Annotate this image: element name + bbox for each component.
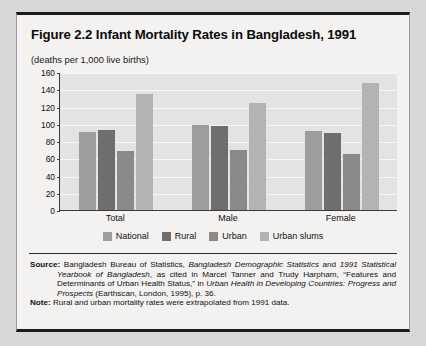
y-tick-120: 120 [29, 103, 55, 111]
source-text-1: Bangladesh Bureau of Statistics, [60, 260, 188, 269]
figure-card: Figure 2.2 Infant Mortality Rates in Ban… [16, 12, 410, 332]
y-tick-160: 160 [29, 69, 55, 77]
y-tickmark-20 [57, 194, 61, 195]
legend-swatch-urban-slums [260, 232, 269, 241]
y-tickmark-0 [57, 211, 61, 212]
bar-total-urban [117, 151, 134, 210]
y-tick-100: 100 [29, 121, 55, 129]
bar-female-urban-slums [362, 83, 379, 210]
bar-female-urban [343, 154, 360, 210]
source-text-2: and [319, 260, 340, 269]
y-tickmark-120 [57, 108, 61, 109]
legend-label-national: National [116, 231, 149, 241]
figure-title: Figure 2.2 Infant Mortality Rates in Ban… [31, 27, 356, 42]
footnotes: Source: Bangladesh Bureau of Statistics,… [30, 260, 396, 308]
y-tickmark-140 [57, 90, 61, 91]
legend-item-urban: Urban [209, 231, 247, 241]
x-label-female: Female [326, 213, 356, 223]
y-tick-0: 0 [29, 207, 55, 215]
footnote-divider [29, 253, 397, 254]
legend-swatch-urban [209, 232, 218, 241]
note-line: Note: Rural and urban mortality rates we… [30, 298, 396, 308]
legend-label-rural: Rural [175, 231, 197, 241]
legend-swatch-national [103, 232, 112, 241]
y-tick-40: 40 [29, 172, 55, 180]
y-tick-20: 20 [29, 190, 55, 198]
bar-male-rural [211, 126, 228, 210]
y-tickmark-100 [57, 125, 61, 126]
legend-item-national: National [103, 231, 149, 241]
legend-label-urban: Urban [222, 231, 247, 241]
bar-total-rural [98, 130, 115, 210]
source-label: Source: [30, 260, 60, 269]
x-label-total: Total [106, 213, 125, 223]
bar-female-rural [324, 133, 341, 210]
source-note: Source: Bangladesh Bureau of Statistics,… [30, 260, 396, 298]
bars-layer [60, 73, 397, 210]
y-axis-labels: 020406080100120140160 [29, 73, 55, 211]
note-label: Note: [30, 298, 51, 307]
source-text-4: (Earthscan, London, 1995), p. 36. [93, 289, 216, 298]
bar-total-national [79, 132, 96, 210]
chart-legend: NationalRuralUrbanUrban slums [17, 231, 409, 241]
legend-item-urban-slums: Urban slums [260, 231, 324, 241]
y-tickmark-40 [57, 177, 61, 178]
source-italic-1: Bangladesh Demographic Statistics [188, 260, 319, 269]
y-tickmark-80 [57, 142, 61, 143]
legend-swatch-rural [162, 232, 171, 241]
x-axis-labels: TotalMaleFemale [59, 213, 397, 227]
y-tick-140: 140 [29, 86, 55, 94]
x-label-male: Male [218, 213, 238, 223]
units-label: (deaths per 1,000 live births) [31, 55, 149, 65]
legend-label-urban-slums: Urban slums [273, 231, 324, 241]
y-tick-60: 60 [29, 155, 55, 163]
plot-area [59, 73, 397, 211]
bar-total-urban-slums [136, 94, 153, 210]
note-text: Rural and urban mortality rates were ext… [51, 298, 290, 307]
legend-item-rural: Rural [162, 231, 197, 241]
bar-female-national [305, 131, 322, 210]
chart-plot: 020406080100120140160 TotalMaleFemale [29, 73, 397, 225]
bar-male-urban [230, 150, 247, 210]
bar-male-urban-slums [249, 103, 266, 210]
y-tick-80: 80 [29, 138, 55, 146]
y-tickmark-160 [57, 73, 61, 74]
bar-male-national [192, 125, 209, 210]
y-tickmark-60 [57, 159, 61, 160]
